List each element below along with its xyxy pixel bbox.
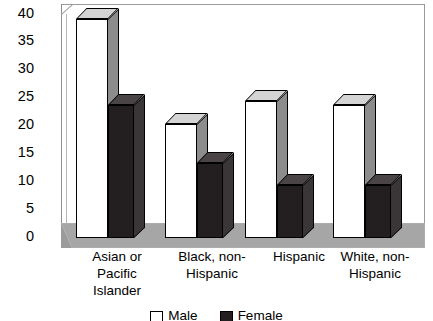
bar-front-face xyxy=(197,163,223,238)
legend-items: Male Female xyxy=(0,308,433,321)
bar-side-face xyxy=(134,94,145,238)
legend-swatch-icon xyxy=(150,311,163,321)
bar-hispanic-female xyxy=(277,185,303,238)
legend-swatch-icon xyxy=(220,311,233,321)
x-label-line: White, non- xyxy=(319,248,431,265)
legend-item-male: Male xyxy=(150,308,197,321)
x-label-line: Islander xyxy=(61,282,173,299)
bar-front-face xyxy=(333,105,365,238)
bar-chart: 40 35 30 25 20 15 10 5 0 xyxy=(0,0,433,321)
bar-white-non-hispanic-male xyxy=(333,105,365,238)
legend-label: Female xyxy=(238,308,283,321)
legend-item-female: Female xyxy=(220,308,283,321)
x-label-line: Hispanic xyxy=(319,265,431,282)
bar-side-face xyxy=(391,174,402,238)
bar-front-face xyxy=(108,105,134,238)
bar-front-face xyxy=(277,185,303,238)
x-axis: Asian or Pacific Islander Black, non- Hi… xyxy=(61,248,425,306)
bar-black-non-hispanic-female xyxy=(197,163,223,238)
x-label-white-non-hispanic: White, non- Hispanic xyxy=(319,248,431,282)
bar-front-face xyxy=(76,19,108,238)
legend-label: Male xyxy=(168,308,197,321)
chart-legend: Male Female xyxy=(0,308,433,321)
bar-front-face xyxy=(165,124,197,238)
x-label-line: Hispanic xyxy=(156,265,268,282)
bar-side-face xyxy=(223,152,234,238)
bar-front-face xyxy=(365,185,391,238)
bar-black-non-hispanic-male xyxy=(165,124,197,238)
bar-asian-or-pacific-islander-male xyxy=(76,19,108,238)
bar-white-non-hispanic-female xyxy=(365,185,391,238)
bar-hispanic-male xyxy=(245,101,277,238)
bar-side-face xyxy=(303,174,314,238)
bar-front-face xyxy=(245,101,277,238)
bar-asian-or-pacific-islander-female xyxy=(108,105,134,238)
